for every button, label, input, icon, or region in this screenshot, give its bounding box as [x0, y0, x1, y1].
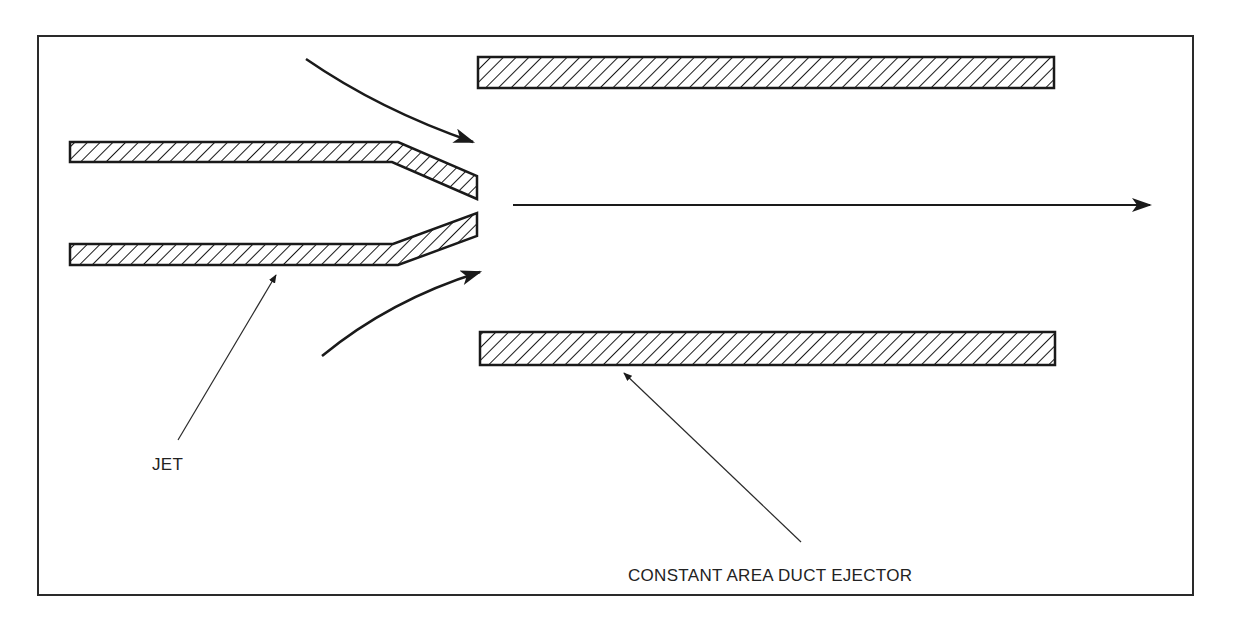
ejector-diagram: [0, 0, 1233, 619]
ejector-leader-line: [624, 373, 801, 542]
jet-leader-line: [178, 275, 276, 440]
jet-label: JET: [152, 455, 183, 475]
duct-wall-bottom: [480, 332, 1055, 365]
entrained-flow-arrow-bottom: [322, 272, 480, 356]
duct-wall-top: [478, 57, 1054, 88]
ejector-label: CONSTANT AREA DUCT EJECTOR: [628, 566, 912, 586]
frame-border: [38, 36, 1193, 595]
nozzle-wall-upper: [70, 142, 477, 199]
nozzle-wall-lower: [70, 213, 477, 265]
entrained-flow-arrow-top: [306, 59, 473, 142]
